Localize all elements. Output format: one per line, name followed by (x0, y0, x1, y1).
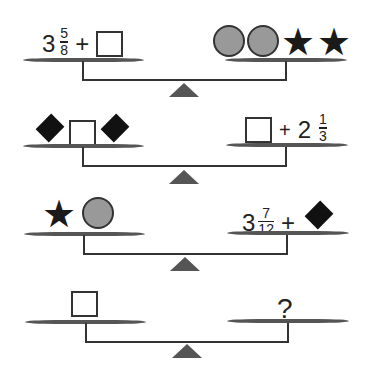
circle-icon (213, 25, 245, 57)
beam (83, 253, 288, 255)
left-stem (83, 235, 85, 255)
fulcrum-icon (172, 344, 202, 358)
balance-scale-3: ★ 3 712 + (0, 185, 374, 275)
square-icon (71, 291, 98, 317)
square-icon (245, 117, 272, 143)
right-pan-contents: + 2 13 (245, 113, 327, 143)
right-pan (226, 143, 348, 147)
left-pan-contents: ★ (42, 197, 114, 229)
balance-scale-4: ? (0, 280, 374, 369)
left-stem (82, 61, 84, 81)
star-icon: ★ (281, 27, 315, 57)
circle-icon (82, 197, 114, 229)
right-stem (286, 235, 288, 255)
fraction: 13 (319, 113, 327, 143)
right-pan (227, 231, 349, 235)
left-pan-contents: 3 58 + (42, 27, 123, 57)
diamond-icon (305, 201, 334, 230)
left-pan-contents (33, 110, 132, 146)
whole-number: 3 (42, 31, 55, 57)
right-stem (287, 323, 289, 343)
star-icon: ★ (317, 27, 351, 57)
square-icon (96, 31, 123, 57)
fulcrum-icon (169, 83, 199, 97)
beam (85, 341, 289, 343)
plus-sign: + (279, 117, 291, 143)
right-stem (285, 147, 287, 167)
plus-sign: + (75, 31, 89, 57)
diamond-icon (36, 114, 65, 143)
left-stem (85, 323, 87, 343)
right-pan-contents: ★ ★ (213, 25, 351, 57)
right-stem (285, 61, 287, 81)
fulcrum-icon (169, 170, 199, 184)
left-pan-contents (71, 291, 98, 317)
left-stem (82, 147, 84, 167)
fraction: 58 (60, 27, 68, 57)
square-icon (69, 120, 96, 146)
circle-icon (247, 25, 279, 57)
balance-scale-1: 3 58 + ★ ★ (0, 0, 374, 90)
diamond-icon (101, 114, 130, 143)
star-icon: ★ (42, 199, 76, 229)
beam (82, 165, 287, 167)
whole-number: 2 (298, 117, 311, 143)
fulcrum-icon (170, 257, 200, 271)
balance-scale-2: + 2 13 (0, 100, 374, 190)
beam (82, 79, 287, 81)
